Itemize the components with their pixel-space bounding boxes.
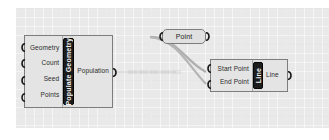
ghost-wire-text: 000 000 000 000 000 xyxy=(128,69,181,75)
port-seed-in[interactable] xyxy=(20,76,26,85)
populate-geometry-name-bar[interactable]: Populate Geometry xyxy=(63,38,74,105)
wire-point-to-end-point xyxy=(150,37,206,84)
port-population-out[interactable] xyxy=(112,68,118,77)
node-populate-geometry[interactable]: Geometry Count Seed Points Populate Geom… xyxy=(24,35,113,108)
param-geometry[interactable]: Geometry xyxy=(27,45,62,52)
port-points-in[interactable] xyxy=(20,93,26,102)
param-line-out[interactable]: Line xyxy=(263,72,282,79)
param-points[interactable]: Points xyxy=(38,92,63,99)
port-count-in[interactable] xyxy=(20,59,26,68)
port-point-in[interactable] xyxy=(158,32,164,41)
populate-geometry-inputs: Geometry Count Seed Points xyxy=(25,36,63,107)
line-name-label: Line xyxy=(255,68,262,83)
node-editor-canvas[interactable]: 000 000 000 000 000 Geometry Count Seed … xyxy=(16,8,329,128)
param-end-point[interactable]: End Point xyxy=(217,79,252,86)
param-start-point[interactable]: Start Point xyxy=(215,66,252,73)
port-end-point-in[interactable] xyxy=(206,80,212,89)
port-point-out[interactable] xyxy=(205,32,211,41)
node-point[interactable]: Point xyxy=(162,29,206,44)
node-line[interactable]: Start Point End Point Line Line xyxy=(210,59,288,92)
populate-geometry-name-label: Populate Geometry xyxy=(65,38,72,106)
param-count[interactable]: Count xyxy=(38,60,62,67)
line-outputs: Line xyxy=(263,60,287,91)
param-population[interactable]: Population xyxy=(74,68,112,75)
point-label: Point xyxy=(176,33,192,40)
port-line-out[interactable] xyxy=(287,71,293,80)
param-seed[interactable]: Seed xyxy=(41,76,63,83)
populate-geometry-outputs: Population xyxy=(74,36,112,107)
line-inputs: Start Point End Point xyxy=(211,60,253,91)
port-geometry-in[interactable] xyxy=(20,43,26,52)
line-name-bar[interactable]: Line xyxy=(253,62,263,89)
port-start-point-in[interactable] xyxy=(206,64,212,73)
